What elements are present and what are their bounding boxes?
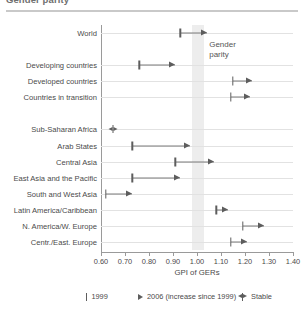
y-axis-tick-label: World <box>77 29 97 38</box>
x-axis-tick <box>173 252 174 256</box>
chart-legend: 19992006 (increase since 1999)Stable <box>86 292 298 306</box>
x-axis-tick <box>101 252 102 256</box>
gender-parity-band <box>192 25 204 250</box>
y-axis-tick-label: Countries in transition <box>24 93 97 102</box>
stable-marker <box>109 125 118 133</box>
gridline <box>101 65 293 66</box>
marker-1999 <box>179 29 180 38</box>
marker-2006 <box>208 158 214 164</box>
y-axis-tick-label: Arab States <box>57 141 97 150</box>
plot-area: Genderparity <box>101 25 293 250</box>
marker-1999 <box>215 205 216 214</box>
y-axis-tick-label: Developing countries <box>26 61 97 70</box>
legend-label: 2006 (increase since 1999) <box>147 292 236 301</box>
gridline <box>101 81 293 82</box>
x-axis-tick-label: 0.60 <box>94 257 108 266</box>
gender-parity-label: Genderparity <box>209 40 269 59</box>
x-axis-tick <box>245 252 246 256</box>
marker-1999 <box>131 141 132 150</box>
change-connector <box>132 177 180 178</box>
y-axis-tick-label: South and West Asia <box>27 189 97 198</box>
marker-2006 <box>184 142 190 148</box>
x-axis-tick-label: 1.10 <box>214 257 228 266</box>
legend-bar-icon <box>86 293 87 301</box>
marker-1999 <box>230 237 231 246</box>
marker-1999 <box>230 93 231 102</box>
marker-2006 <box>258 222 264 228</box>
y-axis-tick-label: N. America/W. Europe <box>22 221 97 230</box>
y-axis-tick-label: Developed countries <box>28 77 97 86</box>
y-axis-tick-label: Sub-Saharan Africa <box>31 125 97 134</box>
marker-1999 <box>232 77 233 86</box>
legend-item: Stable <box>238 292 272 301</box>
x-axis-tick <box>221 252 222 256</box>
marker-2006 <box>244 94 250 100</box>
legend-label: Stable <box>251 292 272 301</box>
marker-2006 <box>174 174 180 180</box>
x-axis-tick-label: 0.70 <box>118 257 132 266</box>
legend-arrow-icon <box>138 294 143 300</box>
marker-2006 <box>201 29 207 35</box>
marker-2006 <box>241 238 247 244</box>
marker-2006 <box>246 78 252 84</box>
gridline <box>101 178 293 179</box>
gridline <box>101 242 293 243</box>
x-axis-title: GPI of GERs <box>101 268 293 277</box>
x-axis-tick <box>293 252 294 256</box>
change-connector <box>132 145 190 146</box>
x-axis-tick-label: 0.90 <box>166 257 180 266</box>
legend-item: 1999 <box>86 292 108 301</box>
gridline <box>101 146 293 147</box>
marker-1999 <box>139 61 140 70</box>
x-axis-tick <box>269 252 270 256</box>
legend-item: 2006 (increase since 1999) <box>138 292 236 301</box>
title-divider <box>6 10 298 12</box>
gridline <box>101 97 293 98</box>
y-axis-tick-label: Centr./East. Europe <box>31 237 97 246</box>
x-axis-tick-label: 1.30 <box>262 257 276 266</box>
chart-title-cropped: Gender parity <box>6 0 298 9</box>
gridline <box>101 210 293 211</box>
x-axis-tick-label: 1.40 <box>286 257 300 266</box>
x-axis-tick-label: 1.00 <box>190 257 204 266</box>
marker-1999 <box>105 189 106 198</box>
marker-1999 <box>131 173 132 182</box>
x-axis-tick <box>149 252 150 256</box>
x-axis-tick <box>125 252 126 256</box>
y-axis-tick-label: East Asia and the Pacific <box>13 173 97 182</box>
y-axis-labels: WorldDeveloping countriesDeveloped count… <box>0 25 97 250</box>
x-axis-tick-label: 1.20 <box>238 257 252 266</box>
gridline <box>101 129 293 130</box>
x-axis-tick <box>197 252 198 256</box>
marker-2006 <box>126 190 132 196</box>
page-title: Gender parity <box>6 0 69 5</box>
marker-2006 <box>169 62 175 68</box>
legend-label: 1999 <box>91 292 107 301</box>
y-axis-tick-label: Latin America/Caribbean <box>14 205 97 214</box>
marker-1999 <box>175 157 176 166</box>
legend-stable-icon <box>238 293 247 301</box>
y-axis-tick-label: Central Asia <box>56 157 97 166</box>
x-axis-tick-label: 0.80 <box>142 257 156 266</box>
figure: Gender parity Genderparity WorldDevelopi… <box>0 0 304 318</box>
gridline <box>101 226 293 227</box>
marker-2006 <box>222 206 228 212</box>
marker-1999 <box>242 221 243 230</box>
